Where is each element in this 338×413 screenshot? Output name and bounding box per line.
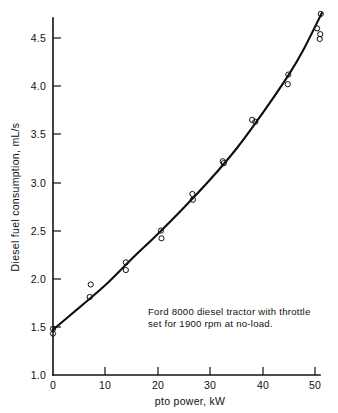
x-axis-title: pto power, kW [155, 395, 225, 407]
y-tick-label-3.5: 3.5 [31, 128, 46, 140]
annotation-line-1: Ford 8000 diesel tractor with throttle [148, 306, 311, 317]
y-tick-label-1.0: 1.0 [31, 369, 46, 381]
data-point [190, 191, 195, 196]
data-point-markers [50, 11, 323, 336]
annotation-line-2: set for 1900 rpm at no-load. [148, 318, 273, 329]
data-point [221, 161, 226, 166]
data-point [50, 331, 55, 336]
y-axis-ticks: 4.5 4.0 3.5 3.0 2.5 2.0 1.5 1.0 [31, 32, 61, 381]
x-axis-ticks: 0 10 20 30 40 50 [50, 367, 321, 391]
y-tick-label-1.5: 1.5 [31, 321, 46, 333]
y-tick-label-3.0: 3.0 [31, 177, 46, 189]
x-tick-label-0: 0 [50, 379, 56, 391]
y-axis-title: Diesel fuel consumption, mL/s [9, 123, 21, 272]
data-point [315, 26, 320, 31]
data-point [318, 11, 323, 16]
y-tick-label-4.0: 4.0 [31, 80, 46, 92]
data-point [190, 197, 195, 202]
data-point [88, 282, 93, 287]
chart-figure: 4.5 4.0 3.5 3.0 2.5 2.0 1.5 1.0 0 10 20 … [0, 0, 338, 413]
y-tick-label-2.5: 2.5 [31, 225, 46, 237]
data-point [317, 36, 322, 41]
data-point [158, 228, 163, 233]
data-point [286, 72, 291, 77]
x-tick-label-10: 10 [99, 379, 111, 391]
data-point [253, 119, 258, 124]
x-tick-label-20: 20 [152, 379, 164, 391]
x-tick-label-30: 30 [204, 379, 216, 391]
data-point [87, 294, 92, 299]
y-tick-label-4.5: 4.5 [31, 32, 46, 44]
x-tick-label-50: 50 [309, 379, 321, 391]
fuel-consumption-scatter-plot: 4.5 4.0 3.5 3.0 2.5 2.0 1.5 1.0 0 10 20 … [0, 0, 338, 413]
data-point [285, 82, 290, 87]
annotation-block: Ford 8000 diesel tractor with throttle s… [148, 306, 311, 329]
fit-curve [53, 13, 322, 330]
data-point [159, 236, 164, 241]
x-tick-label-40: 40 [257, 379, 269, 391]
data-point [123, 260, 128, 265]
y-tick-label-2.0: 2.0 [31, 273, 46, 285]
data-point [123, 267, 128, 272]
